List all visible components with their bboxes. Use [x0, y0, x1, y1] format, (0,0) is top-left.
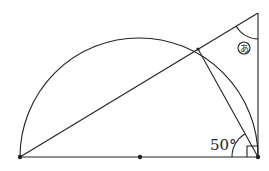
angle-a-label: あ — [240, 44, 249, 54]
point-arc — [196, 47, 199, 50]
geometry-diagram: 50° あ — [0, 0, 269, 171]
point-left — [18, 155, 22, 159]
angle-50-label: 50° — [210, 136, 237, 154]
point-center — [138, 155, 142, 159]
point-right — [256, 155, 260, 159]
angle-a-arc — [236, 26, 258, 39]
